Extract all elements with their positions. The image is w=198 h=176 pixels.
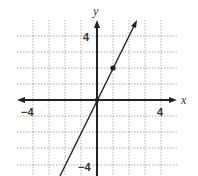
x-axis-right-arrow-icon (169, 97, 177, 103)
tick-label-x-neg4: −4 (21, 106, 34, 118)
x-axis-label: x (180, 93, 187, 107)
coordinate-plane: y x −4 4 4 −4 (0, 0, 198, 176)
y-axis-label: y (92, 4, 99, 18)
tick-label-y-pos4: 4 (83, 31, 90, 43)
graph-line-arrow-icon (131, 20, 137, 28)
y-axis-up-arrow-icon (94, 20, 100, 28)
tick-label-x-pos4: 4 (157, 106, 164, 118)
tick-label-y-neg4: −4 (78, 161, 91, 173)
point-1-2 (110, 65, 115, 70)
point-origin (95, 98, 99, 102)
x-axis-left-arrow-icon (17, 97, 25, 103)
